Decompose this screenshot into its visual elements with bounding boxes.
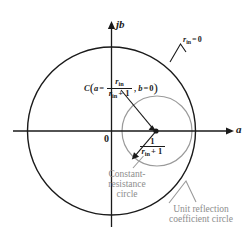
center-close-paren: ) bbox=[154, 83, 158, 92]
origin-label: 0 bbox=[104, 134, 109, 145]
radius-annotation: 1 rin+ 1 bbox=[138, 137, 167, 158]
imaginary-axis-label: jb bbox=[116, 19, 125, 31]
radius-fraction-numerator: 1 bbox=[148, 137, 156, 146]
unit-reflection-coefficient-caption: Unit reflection coefficient circle bbox=[158, 205, 244, 225]
real-axis-arrowhead bbox=[226, 127, 234, 134]
center-coord-a-symbol: a bbox=[94, 84, 98, 93]
center-coord-b-operator: = bbox=[143, 84, 148, 93]
center-fraction-denominator: rin+ 1 bbox=[107, 88, 133, 100]
center-coord-b-symbol: b bbox=[138, 84, 142, 93]
center-fraction-numerator: rin bbox=[113, 77, 126, 88]
rin-zero-value: 0 bbox=[198, 35, 202, 44]
radius-fraction: 1 rin+ 1 bbox=[140, 137, 166, 158]
unit-circle-leader-line bbox=[169, 181, 196, 203]
real-axis-label: a bbox=[236, 124, 242, 136]
rin-zero-subscript: in bbox=[186, 39, 191, 45]
center-coord-separator: , bbox=[134, 84, 136, 93]
rin-zero-annotation: rin=0 bbox=[183, 36, 202, 45]
rin-zero-operator: = bbox=[192, 35, 197, 44]
center-coord-a-operator: = bbox=[99, 84, 104, 93]
imaginary-axis-arrowhead bbox=[108, 21, 115, 29]
smith-chart-figure: jb a 0 rin=0 C(a= rin rin+ 1 , b=0) 1 ri… bbox=[0, 0, 247, 242]
constant-resistance-caption: Constant-resistance circle bbox=[98, 170, 156, 200]
center-coord-a-fraction: rin rin+ 1 bbox=[107, 77, 133, 99]
rin-zero-leader-line bbox=[170, 44, 186, 62]
radius-fraction-denominator: rin+ 1 bbox=[140, 146, 166, 158]
center-coordinate-annotation: C(a= rin rin+ 1 , b=0) bbox=[84, 77, 158, 99]
center-point-dot bbox=[153, 128, 158, 133]
